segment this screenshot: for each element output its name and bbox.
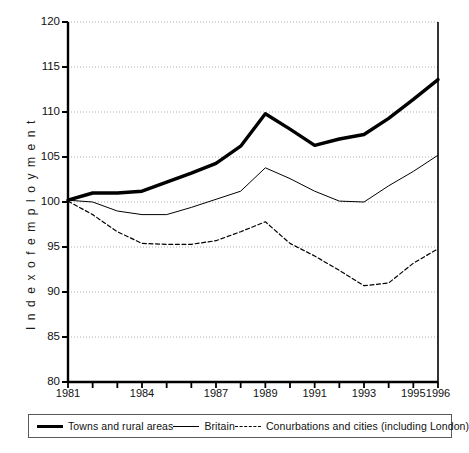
legend-swatch-thin-line-icon bbox=[173, 426, 199, 427]
legend-swatch-thick-line-icon bbox=[37, 425, 63, 428]
legend-swatch-dashed-line-icon bbox=[235, 426, 261, 427]
series-line-2 bbox=[68, 201, 438, 286]
legend-label-towns: Towns and rural areas bbox=[68, 420, 173, 432]
legend-item-conurbations: Conurbations and cities (including Londo… bbox=[235, 420, 469, 432]
chart-legend: Towns and rural areas Britain Conurbatio… bbox=[28, 414, 452, 438]
series-line-0 bbox=[68, 80, 438, 201]
data-series-layer bbox=[68, 80, 438, 286]
legend-item-towns-and-rural-areas: Towns and rural areas bbox=[37, 420, 173, 432]
legend-label-conurbations: Conurbations and cities (including Londo… bbox=[266, 420, 469, 432]
legend-label-britain: Britain bbox=[204, 420, 234, 432]
series-line-1 bbox=[68, 155, 438, 214]
legend-item-britain: Britain bbox=[173, 420, 234, 432]
